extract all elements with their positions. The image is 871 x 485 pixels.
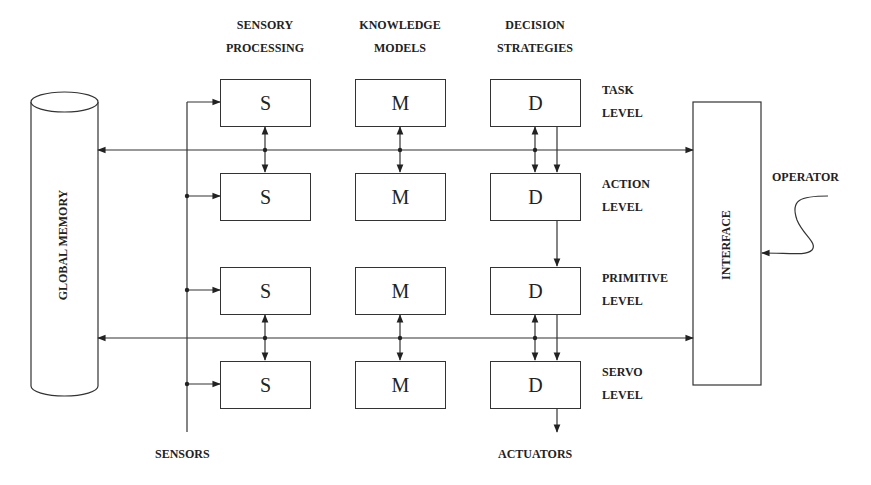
header-sensory-processing: SENSORY PROCESSING — [205, 14, 325, 60]
header-line1: SENSORY — [205, 14, 325, 37]
diagram-connections — [0, 0, 871, 485]
operator-input-line — [762, 196, 828, 254]
sensory-box-task: S — [220, 79, 311, 127]
model-box-action: M — [355, 173, 446, 221]
level-line2: LEVEL — [602, 384, 643, 407]
header-line1: KNOWLEDGE — [340, 14, 460, 37]
level-line1: ACTION — [602, 173, 650, 196]
header-decision-strategies: DECISION STRATEGIES — [475, 14, 595, 60]
level-line1: SERVO — [602, 361, 643, 384]
level-line2: LEVEL — [602, 102, 643, 125]
level-label-primitive: PRIMITIVE LEVEL — [602, 267, 668, 313]
interface-label: INTERFACE — [719, 185, 735, 305]
header-line2: MODELS — [340, 37, 460, 60]
level-label-action: ACTION LEVEL — [602, 173, 650, 219]
decision-box-servo: D — [490, 361, 581, 409]
sensory-box-servo: S — [220, 361, 311, 409]
model-box-task: M — [355, 79, 446, 127]
level-label-servo: SERVO LEVEL — [602, 361, 643, 407]
sensory-box-action: S — [220, 173, 311, 221]
header-knowledge-models: KNOWLEDGE MODELS — [340, 14, 460, 60]
operator-label: OPERATOR — [772, 166, 839, 189]
global-memory-label: GLOBAL MEMORY — [56, 185, 72, 305]
header-line2: STRATEGIES — [475, 37, 595, 60]
decision-box-primitive: D — [490, 267, 581, 315]
level-line2: LEVEL — [602, 290, 668, 313]
model-box-primitive: M — [355, 267, 446, 315]
level-label-task: TASK LEVEL — [602, 79, 643, 125]
level-line1: PRIMITIVE — [602, 267, 668, 290]
sensory-box-primitive: S — [220, 267, 311, 315]
header-line2: PROCESSING — [205, 37, 325, 60]
decision-box-task: D — [490, 79, 581, 127]
model-box-servo: M — [355, 361, 446, 409]
level-line2: LEVEL — [602, 196, 650, 219]
decision-box-action: D — [490, 173, 581, 221]
header-line1: DECISION — [475, 14, 595, 37]
actuators-label: ACTUATORS — [498, 443, 572, 466]
sensors-label: SENSORS — [155, 443, 210, 466]
level-line1: TASK — [602, 79, 643, 102]
